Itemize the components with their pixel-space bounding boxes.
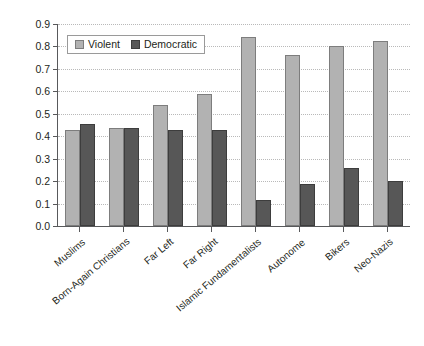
bar-group <box>329 24 359 226</box>
x-tick-mark <box>299 227 300 232</box>
bar <box>344 168 359 226</box>
y-tick-mark-0.7 <box>53 69 58 70</box>
legend-label: Violent <box>88 39 120 50</box>
y-axis-line <box>57 24 58 227</box>
x-axis-label: Far Right <box>181 236 220 271</box>
x-axis-line <box>57 226 410 227</box>
legend-swatch-violent-icon <box>75 40 84 49</box>
bar <box>300 184 315 226</box>
x-axis-label: Far Left <box>142 236 175 267</box>
x-tick-mark <box>211 227 212 232</box>
x-tick-mark <box>79 227 80 232</box>
bar <box>256 200 271 226</box>
y-tick-label-0.8: 0.8 <box>24 41 50 51</box>
y-tick-mark-0.2 <box>53 181 58 182</box>
bar-chart: Scale Score 0.90.80.70.60.50.40.30.20.10… <box>0 0 424 346</box>
bar <box>212 130 227 227</box>
bar <box>153 105 168 226</box>
bar <box>388 181 403 226</box>
y-tick-label-0.1: 0.1 <box>24 199 50 209</box>
bar-group <box>241 24 271 226</box>
y-tick-mark-0.9 <box>53 24 58 25</box>
x-tick-mark <box>255 227 256 232</box>
y-tick-label-0.4: 0.4 <box>24 131 50 141</box>
bar <box>168 130 183 227</box>
legend-label: Democratic <box>144 39 197 50</box>
bar <box>285 55 300 226</box>
bar-group <box>373 24 403 226</box>
x-axis-label: Born-Again Christians <box>50 236 132 307</box>
y-tick-mark-0.8 <box>53 46 58 47</box>
y-tick-label-0.7: 0.7 <box>24 64 50 74</box>
x-axis-label: Autonome <box>265 236 307 274</box>
bar-group <box>197 24 227 226</box>
bar <box>373 41 388 226</box>
legend-entry: Democratic <box>131 39 197 50</box>
bar <box>124 128 139 226</box>
x-axis-label: Neo-Nazis <box>352 236 395 274</box>
x-axis-label: Islamic Fundamentalists <box>174 236 263 313</box>
x-tick-mark <box>167 227 168 232</box>
bar <box>109 128 124 226</box>
bar-group <box>109 24 139 226</box>
x-tick-mark <box>387 227 388 232</box>
bar <box>329 46 344 226</box>
x-axis-label: Bikers <box>323 236 351 262</box>
chart-legend: ViolentDemocratic <box>67 35 205 54</box>
bar-group <box>285 24 315 226</box>
y-tick-label-0.2: 0.2 <box>24 176 50 186</box>
y-tick-mark-0.4 <box>53 136 58 137</box>
y-tick-label-0.9: 0.9 <box>24 19 50 29</box>
x-tick-mark <box>123 227 124 232</box>
bar <box>197 94 212 226</box>
y-tick-mark-0.6 <box>53 91 58 92</box>
y-tick-mark-0.0 <box>53 226 58 227</box>
y-tick-label-0.0: 0.0 <box>24 221 50 231</box>
y-tick-label-0.6: 0.6 <box>24 86 50 96</box>
y-tick-label-0.3: 0.3 <box>24 154 50 164</box>
legend-swatch-democratic-icon <box>131 40 140 49</box>
x-axis-label: Muslims <box>52 236 87 268</box>
y-tick-mark-0.1 <box>53 204 58 205</box>
bar-group <box>65 24 95 226</box>
bar <box>80 124 95 226</box>
y-tick-mark-0.3 <box>53 159 58 160</box>
y-axis-tick-labels: 0.90.80.70.60.50.40.30.20.10.0 <box>20 0 50 346</box>
bar <box>241 37 256 226</box>
y-tick-mark-0.5 <box>53 114 58 115</box>
legend-entry: Violent <box>75 39 120 50</box>
plot-area <box>58 24 410 226</box>
x-tick-mark <box>343 227 344 232</box>
bar <box>65 130 80 227</box>
y-tick-label-0.5: 0.5 <box>24 109 50 119</box>
bar-group <box>153 24 183 226</box>
